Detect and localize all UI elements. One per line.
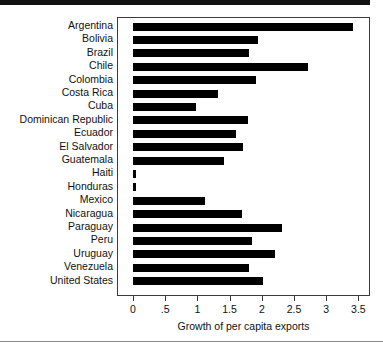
category-label: Peru	[0, 233, 113, 246]
bar	[133, 103, 196, 111]
bar	[133, 277, 263, 285]
bar	[133, 264, 249, 272]
category-label: Honduras	[0, 180, 113, 193]
category-label: Ecuador	[0, 126, 113, 139]
x-tick-mark	[358, 296, 359, 301]
top-divider-rule	[0, 0, 370, 5]
x-tick-mark	[165, 296, 166, 301]
bar-row	[118, 221, 369, 234]
bar-row	[118, 60, 369, 73]
bar-row	[118, 275, 369, 288]
bar	[133, 116, 248, 124]
category-label: Haiti	[0, 166, 113, 179]
bar-row	[118, 194, 369, 207]
x-axis-title: Growth of per capita exports	[117, 320, 370, 332]
x-tick-label: 2.5	[279, 303, 309, 315]
bar	[133, 237, 252, 245]
bar	[133, 36, 258, 44]
x-tick-label: 1.5	[215, 303, 245, 315]
x-tick-label: 3	[311, 303, 341, 315]
x-tick-label: 3.5	[343, 303, 373, 315]
x-tick-label: .5	[150, 303, 180, 315]
bar	[133, 49, 249, 57]
x-tick-mark	[230, 296, 231, 301]
category-label: Cuba	[0, 99, 113, 112]
bottom-divider-rule	[0, 341, 383, 342]
bar-row	[118, 248, 369, 261]
category-label: Uruguay	[0, 247, 113, 260]
bar-row	[118, 141, 369, 154]
category-label: Colombia	[0, 73, 113, 86]
x-tick-mark	[294, 296, 295, 301]
x-tick-label: 1	[182, 303, 212, 315]
bar-row	[118, 127, 369, 140]
bars-container	[118, 18, 369, 295]
bar	[133, 63, 308, 71]
category-label: Paraguay	[0, 220, 113, 233]
category-label: Guatemala	[0, 153, 113, 166]
bar-row	[118, 181, 369, 194]
x-tick-mark	[326, 296, 327, 301]
bar	[133, 23, 353, 31]
bar	[133, 250, 275, 258]
category-label: Bolivia	[0, 32, 113, 45]
bar-row	[118, 154, 369, 167]
x-tick-mark	[133, 296, 134, 301]
x-tick-label: 2	[247, 303, 277, 315]
x-tick-mark	[262, 296, 263, 301]
bar-row	[118, 33, 369, 46]
bar	[133, 130, 236, 138]
category-label: Argentina	[0, 19, 113, 32]
category-label: Mexico	[0, 193, 113, 206]
bar-row	[118, 47, 369, 60]
bar-row	[118, 261, 369, 274]
bar	[133, 183, 136, 191]
x-tick-mark	[197, 296, 198, 301]
category-label: El Salvador	[0, 140, 113, 153]
bar-row	[118, 20, 369, 33]
bar-row	[118, 100, 369, 113]
bar-row	[118, 87, 369, 100]
bar-row	[118, 167, 369, 180]
category-label: Costa Rica	[0, 86, 113, 99]
bar	[133, 143, 243, 151]
category-label: Chile	[0, 59, 113, 72]
category-label: Brazil	[0, 46, 113, 59]
bar-row	[118, 208, 369, 221]
bar	[133, 170, 136, 178]
bar-row	[118, 114, 369, 127]
bar-row	[118, 234, 369, 247]
bar	[133, 76, 256, 84]
x-tick-label: 0	[118, 303, 148, 315]
category-label: Nicaragua	[0, 207, 113, 220]
category-label: Dominican Republic	[0, 113, 113, 126]
bar-row	[118, 74, 369, 87]
category-label: Venezuela	[0, 260, 113, 273]
bar	[133, 210, 242, 218]
bar	[133, 197, 205, 205]
y-axis-category-labels: ArgentinaBoliviaBrazilChileColombiaCosta…	[0, 18, 113, 295]
bar	[133, 90, 218, 98]
category-label: United States	[0, 274, 113, 287]
bar	[133, 157, 224, 165]
bar	[133, 224, 282, 232]
bar-chart-figure: ArgentinaBoliviaBrazilChileColombiaCosta…	[0, 0, 383, 351]
